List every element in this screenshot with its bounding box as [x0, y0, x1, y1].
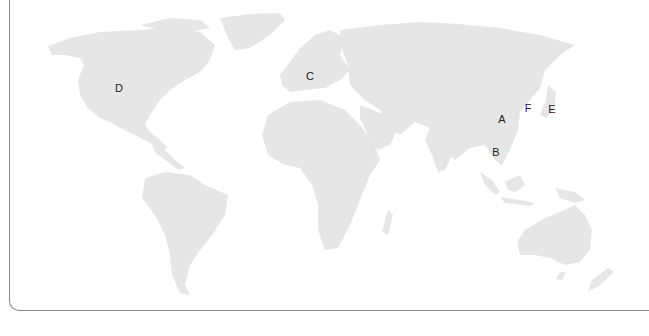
marker-e: E: [548, 104, 555, 115]
north-america: [48, 28, 215, 150]
marker-f: F: [525, 103, 532, 114]
marker-d: D: [115, 83, 123, 94]
marker-a: A: [498, 114, 505, 125]
marker-c: C: [306, 71, 314, 82]
marker-b: B: [492, 147, 499, 158]
